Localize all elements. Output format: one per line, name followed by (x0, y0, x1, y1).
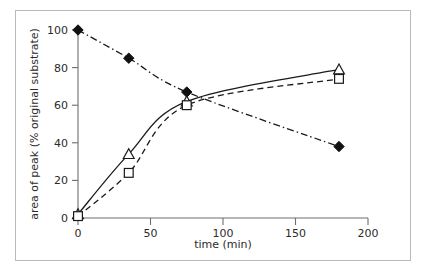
y-axis-tick-labels: 020406080100 (47, 24, 68, 225)
marker-filled-diamond (73, 25, 83, 35)
series-layer (78, 30, 339, 216)
series-line-substrate (78, 30, 339, 147)
x-axis-title: time (min) (194, 238, 252, 251)
x-tick-label: 50 (144, 227, 158, 240)
y-axis-ticks (72, 30, 78, 218)
x-tick-label: 200 (358, 227, 379, 240)
marker-open-triangle (334, 64, 345, 74)
x-tick-label: 150 (285, 227, 306, 240)
series-line-product-square (78, 79, 339, 216)
y-tick-label: 40 (54, 137, 68, 150)
marker-open-square (74, 212, 83, 221)
figure-root: 020406080100 050100150200 time (min) are… (0, 0, 427, 277)
marker-open-square (182, 101, 191, 110)
marker-filled-diamond (124, 53, 134, 63)
y-tick-label: 80 (54, 62, 68, 75)
y-axis-title: area of peak (% original substrate) (28, 28, 41, 220)
y-tick-label: 60 (54, 99, 68, 112)
marker-open-square (335, 74, 344, 83)
marker-layer (73, 25, 345, 221)
axis-lines (78, 30, 368, 218)
line-chart: 020406080100 050100150200 time (min) are… (0, 0, 427, 277)
marker-open-square (124, 168, 133, 177)
y-tick-label: 0 (61, 212, 68, 225)
marker-filled-diamond (334, 141, 344, 151)
x-axis-ticks (78, 218, 368, 225)
series-line-product-triangle (78, 69, 339, 214)
x-tick-label: 0 (75, 227, 82, 240)
y-tick-label: 20 (54, 174, 68, 187)
y-tick-label: 100 (47, 24, 68, 37)
